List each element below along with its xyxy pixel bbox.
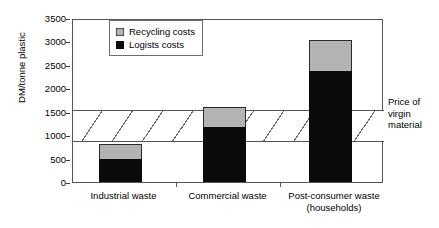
y-tick-label: 0	[30, 178, 66, 188]
bar-segment-recycling-costs	[309, 40, 352, 71]
x-tick-mark	[176, 182, 177, 187]
x-axis-category-labels: Industrial waste Commercial waste Post-c…	[72, 190, 383, 224]
annotation-line-1: Price of	[388, 96, 439, 108]
price-of-virgin-material-label: Price of virgin material	[388, 96, 439, 131]
legend-item-recycling-costs: Recycling costs	[116, 25, 195, 38]
bar-segment-logists-costs	[309, 71, 352, 183]
legend-item-logists-costs: Logists costs	[116, 38, 195, 51]
bar-segment-recycling-costs	[99, 144, 142, 159]
y-tick-label: 500	[30, 155, 66, 165]
y-tick-mark	[66, 89, 70, 90]
x-label-post-consumer-waste-line1: Post-consumer waste	[264, 190, 404, 202]
x-label-post-consumer-waste-line2: (households)	[264, 202, 404, 214]
x-tick-mark	[280, 182, 281, 187]
y-tick-mark	[66, 66, 70, 67]
chart-legend: Recycling costs Logists costs	[109, 20, 203, 56]
y-tick-mark	[66, 183, 70, 184]
y-axis-title: DM/tonne plastic	[16, 3, 27, 133]
bar-industrial-waste	[99, 144, 142, 182]
bar-segment-recycling-costs	[203, 107, 246, 127]
y-tick-label: 2000	[30, 84, 66, 94]
y-tick-label: 1000	[30, 131, 66, 141]
y-tick-mark	[66, 136, 70, 137]
y-axis-tick-labels: 3500 3000 2500 2000 1500 1000 500 0	[26, 0, 66, 228]
annotation-line-2: virgin	[388, 108, 439, 120]
annotation-line-3: material	[388, 119, 439, 131]
y-tick-mark	[66, 42, 70, 43]
y-tick-label: 1500	[30, 108, 66, 118]
legend-label: Recycling costs	[129, 26, 195, 37]
y-tick-label: 2500	[30, 61, 66, 71]
bar-segment-logists-costs	[203, 127, 246, 182]
y-tick-label: 3500	[30, 14, 66, 24]
y-tick-label: 3000	[30, 37, 66, 47]
y-tick-mark	[66, 160, 70, 161]
bar-post-consumer-waste	[309, 40, 352, 182]
logists-costs-swatch-icon	[116, 41, 124, 49]
stacked-bar-chart-figure: DM/tonne plastic 3500 3000 2500 2000 150…	[0, 0, 439, 228]
bar-segment-logists-costs	[99, 159, 142, 182]
bar-commercial-waste	[203, 107, 246, 182]
y-tick-mark	[66, 19, 70, 20]
recycling-costs-swatch-icon	[116, 28, 124, 36]
legend-label: Logists costs	[129, 39, 184, 50]
y-tick-mark	[66, 113, 70, 114]
